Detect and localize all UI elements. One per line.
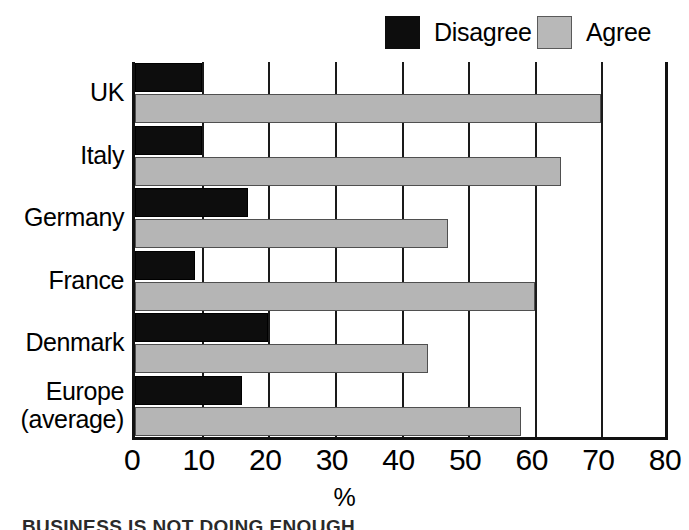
x-tick-label-0: 0 bbox=[102, 444, 162, 476]
y-axis-label-0: UK bbox=[0, 78, 124, 106]
x-tick-label-60: 60 bbox=[502, 444, 562, 476]
y-axis-label-line1-1: Italy bbox=[0, 141, 124, 169]
y-axis-label-line1-2: Germany bbox=[0, 203, 124, 231]
x-tick-label-70: 70 bbox=[568, 444, 628, 476]
x-axis-line bbox=[132, 437, 668, 440]
y-axis-label-1: Italy bbox=[0, 141, 124, 169]
legend-label-agree: Agree bbox=[586, 20, 651, 45]
bar-agree-0 bbox=[135, 94, 601, 123]
y-axis-label-2: Germany bbox=[0, 203, 124, 231]
bar-agree-2 bbox=[135, 219, 448, 248]
bar-agree-5 bbox=[135, 407, 521, 436]
bar-disagree-1 bbox=[135, 126, 202, 155]
bar-disagree-4 bbox=[135, 313, 268, 342]
legend-entry-agree: Agree bbox=[537, 12, 651, 52]
x-tick-label-80: 80 bbox=[635, 444, 689, 476]
y-axis-label-5: Europe(average) bbox=[0, 377, 124, 433]
bar-agree-1 bbox=[135, 157, 561, 186]
x-axis-title: % bbox=[0, 484, 689, 510]
bar-disagree-0 bbox=[135, 63, 202, 92]
legend-label-disagree: Disagree bbox=[434, 20, 532, 45]
x-tick-label-40: 40 bbox=[369, 444, 429, 476]
y-axis-label-line2-5: (average) bbox=[0, 405, 124, 433]
bar-disagree-2 bbox=[135, 188, 248, 217]
y-axis-label-4: Denmark bbox=[0, 328, 124, 356]
bar-agree-4 bbox=[135, 344, 428, 373]
y-axis-label-line1-5: Europe bbox=[0, 377, 124, 405]
bar-agree-3 bbox=[135, 282, 535, 311]
x-tick-label-20: 20 bbox=[235, 444, 295, 476]
legend-swatch-agree bbox=[537, 16, 572, 49]
chart-figure: Disagree Agree UKItalyGermanyFranceDenma… bbox=[0, 0, 689, 530]
bar-disagree-5 bbox=[135, 376, 242, 405]
figure-caption: BUSINESS IS NOT DOING ENOUGH bbox=[22, 516, 355, 530]
y-axis-label-line1-0: UK bbox=[0, 78, 124, 106]
plot-area bbox=[132, 62, 668, 437]
bar-disagree-3 bbox=[135, 251, 195, 280]
gridline-70 bbox=[601, 62, 603, 437]
x-tick-label-50: 50 bbox=[435, 444, 495, 476]
chart-legend: Disagree Agree bbox=[385, 12, 675, 56]
y-axis-label-line1-4: Denmark bbox=[0, 328, 124, 356]
plot-right-border bbox=[665, 62, 668, 440]
x-tick-label-30: 30 bbox=[302, 444, 362, 476]
y-axis-label-line1-3: France bbox=[0, 266, 124, 294]
x-tick-label-10: 10 bbox=[169, 444, 229, 476]
y-axis-label-3: France bbox=[0, 266, 124, 294]
legend-entry-disagree: Disagree bbox=[385, 12, 532, 52]
legend-swatch-disagree bbox=[385, 16, 420, 49]
